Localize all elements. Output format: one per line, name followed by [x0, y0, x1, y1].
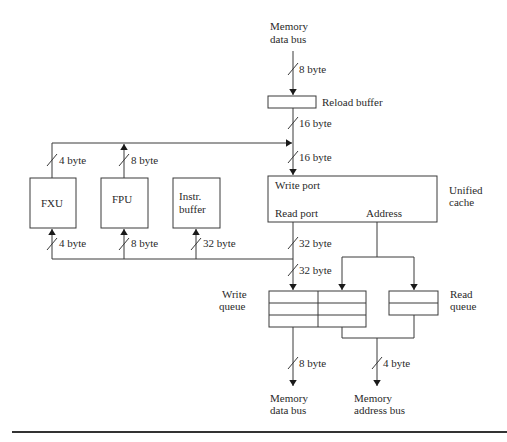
read-queue-label-line2: queue	[450, 300, 476, 312]
fpu-out-width: 8 byte	[131, 154, 158, 166]
memory-data-bus-bottom-line1: Memory	[270, 392, 308, 404]
write-queue-to-mem-width: 8 byte	[299, 357, 326, 369]
memory-address-bus-line1: Memory	[354, 392, 392, 404]
instr-buffer-label-line1: Instr.	[179, 190, 202, 202]
to-address-bus-width: 4 byte	[383, 357, 410, 369]
bus-to-cache-width: 16 byte	[299, 151, 332, 163]
memory-hierarchy-diagram: Memory data bus 8 byte Reload buffer 16 …	[0, 0, 507, 442]
unified-cache-label-line1: Unified	[449, 184, 483, 196]
memory-data-bus-top: Memory data bus	[270, 20, 308, 45]
fxu-in-width: 4 byte	[59, 237, 86, 249]
read-queue-label-line1: Read	[450, 288, 473, 300]
address-label: Address	[366, 207, 402, 219]
instr-buffer-label-line2: buffer	[179, 203, 206, 215]
fxu-out-width: 4 byte	[59, 154, 86, 166]
fpu-in-width: 8 byte	[131, 237, 158, 249]
write-queue-label-line2: queue	[219, 300, 245, 312]
write-port-label: Write port	[275, 179, 320, 191]
read-port-label: Read port	[275, 207, 318, 219]
read-queue-block	[389, 291, 438, 315]
memory-data-bus-bottom-line2: data bus	[270, 404, 306, 416]
reload-buffer	[268, 96, 316, 108]
memory-data-bus-top-line1: Memory	[270, 20, 308, 32]
unified-cache-label-line2: cache	[449, 196, 474, 208]
read-port-width: 32 byte	[299, 237, 332, 249]
memory-address-bus-line2: address bus	[354, 404, 405, 416]
memory-data-bus-top-line2: data bus	[270, 33, 306, 45]
fpu-label: FPU	[112, 193, 132, 205]
reload-buffer-label: Reload buffer	[322, 96, 383, 108]
write-queue-label-line1: Write	[222, 288, 247, 300]
to-write-queue-width: 32 byte	[299, 264, 332, 276]
write-queue-block	[269, 291, 366, 327]
mem-to-reload-width: 8 byte	[299, 63, 326, 75]
fxu-label: FXU	[41, 197, 63, 209]
instr-in-width: 32 byte	[203, 237, 236, 249]
reload-to-bus-width: 16 byte	[299, 117, 332, 129]
